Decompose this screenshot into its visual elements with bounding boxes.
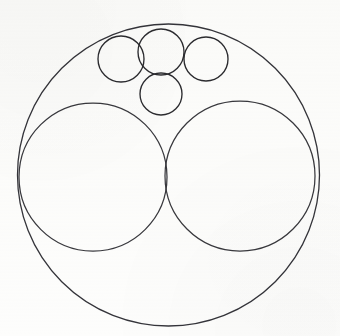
diagram-background (0, 0, 340, 336)
circle-packing-diagram (0, 0, 340, 336)
figure-canvas (0, 0, 340, 336)
